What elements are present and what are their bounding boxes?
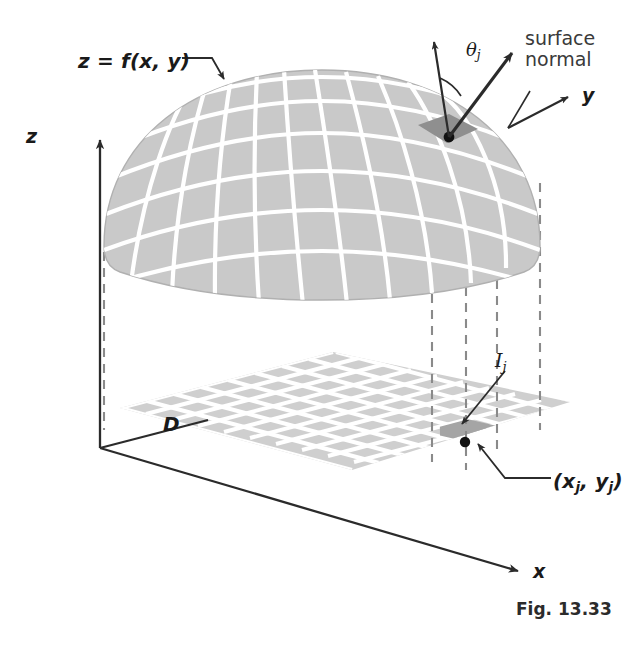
sample-point-label: (xj, yj) [553,470,623,495]
x-axis [100,448,518,571]
surface-normal-label: surface normal [525,28,595,71]
z-axis-label: z [26,126,37,147]
sample-point-close: ) [613,469,622,493]
x-axis-label: x [533,561,545,582]
axis-base-edge [100,420,208,448]
diagram-canvas [0,0,644,654]
figure-caption: Fig. 13.33 [516,600,612,619]
domain-region [120,345,595,470]
sample-point-open: (x [553,469,575,493]
sample-point-leader [478,444,551,478]
domain-sample-point [460,437,470,447]
theta-label: θj [466,40,481,63]
y-axis-label: y [582,85,594,106]
domain-label: D [163,413,180,435]
patch-symbol: I [495,349,503,371]
sample-point-mid: , y [580,469,608,493]
theta-symbol: θ [466,39,477,60]
surface-normal-line2: normal [525,49,595,70]
surface-normal-line1: surface [525,28,595,49]
patch-label: Ij [495,350,507,374]
theta-subscript: j [477,48,481,62]
surface-equation-label: z = f(x, y) [78,50,190,72]
figure-container: z = f(x, y) surface normal θj y z x D Ij… [0,0,644,654]
patch-subscript: j [503,359,507,374]
